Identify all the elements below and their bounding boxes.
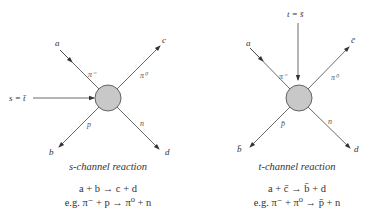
s-line-d [117, 107, 159, 149]
t-energy-label: t = s̄ [287, 9, 304, 19]
s-channel-equation: a + b → c + d [18, 182, 198, 196]
t-channel-diagram: a c̄ b̄ d π⁻ π⁰ p̄ n t = s̄ [237, 9, 359, 154]
s-particle-c: π⁰ [140, 71, 149, 80]
t-vertex-blob [286, 85, 312, 111]
t-line-d [308, 107, 350, 148]
t-particle-c: π⁰ [331, 73, 340, 82]
t-channel-equation: a + c̄ → b̄ + d [207, 182, 373, 196]
s-line-b [59, 107, 99, 147]
t-label-b: b̄ [237, 144, 242, 154]
t-label-c: c̄ [351, 35, 356, 45]
s-line-c [117, 46, 160, 89]
s-energy-label: s = t̄ [9, 93, 27, 103]
t-arrow-a [250, 48, 263, 61]
s-label-d: d [165, 147, 170, 157]
s-vertex-blob [95, 85, 121, 111]
s-label-a: a [55, 38, 60, 48]
t-particle-a: π⁻ [279, 72, 288, 81]
t-channel-caption: t-channel reaction [207, 161, 373, 172]
t-particle-b: p̄ [280, 119, 285, 128]
s-label-b: b [49, 147, 54, 157]
t-channel-example: e.g. π⁻ + π⁰ → p̄ + n [207, 196, 373, 210]
s-label-c: c [162, 35, 166, 45]
s-channel-diagram: a c b d π⁻ π⁰ p n s = t̄ [9, 35, 170, 157]
s-channel-caption: s-channel reaction [18, 161, 198, 172]
s-particle-a: π⁻ [88, 70, 97, 79]
t-line-c [308, 47, 349, 89]
t-particle-d: n [328, 117, 332, 126]
t-label-a: a [246, 38, 251, 48]
s-arrow-a [60, 50, 72, 62]
s-particle-d: n [140, 119, 144, 128]
s-channel-example: e.g. π⁻ + p → π⁰ + n [18, 196, 198, 210]
s-particle-b: p [86, 120, 91, 129]
t-label-d: d [354, 144, 359, 154]
